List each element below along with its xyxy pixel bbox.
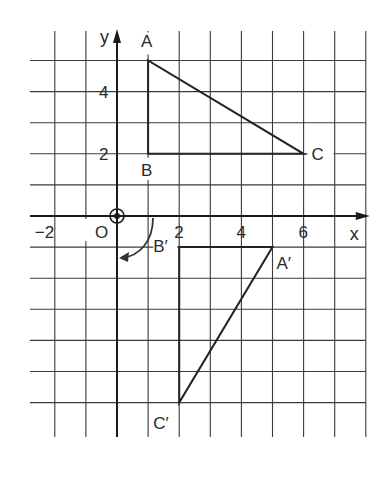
x-tick-label: −2 — [35, 223, 54, 242]
vertex-label: B — [141, 161, 152, 180]
y-axis-label: y — [100, 27, 109, 47]
origin-dot-icon — [114, 213, 120, 219]
y-axis-arrow-icon — [113, 29, 121, 43]
shapes — [148, 61, 304, 403]
vertex-label: A — [141, 32, 153, 51]
x-axis-label: x — [350, 224, 359, 244]
vertex-label: C′ — [153, 414, 168, 433]
rotation-arrowhead-icon — [119, 252, 129, 262]
vertex-label: C — [312, 145, 324, 164]
vertex-label: A′ — [277, 254, 292, 273]
y-tick-label: 4 — [99, 83, 108, 102]
grid — [30, 31, 366, 437]
x-axis-arrow-icon — [356, 212, 370, 220]
vertex-label: B′ — [153, 237, 168, 256]
triangle-abc — [148, 61, 304, 154]
x-tick-label: 4 — [236, 223, 245, 242]
x-tick-label: 2 — [174, 223, 183, 242]
triangle-a-prime-b-prime-c-prime — [179, 247, 272, 403]
axes — [30, 29, 370, 437]
origin-label: O — [95, 223, 108, 242]
coordinate-grid-diagram: ABCA′B′C′−224624xyO — [0, 0, 392, 479]
y-tick-label: 2 — [99, 145, 108, 164]
x-tick-label: 6 — [299, 223, 308, 242]
